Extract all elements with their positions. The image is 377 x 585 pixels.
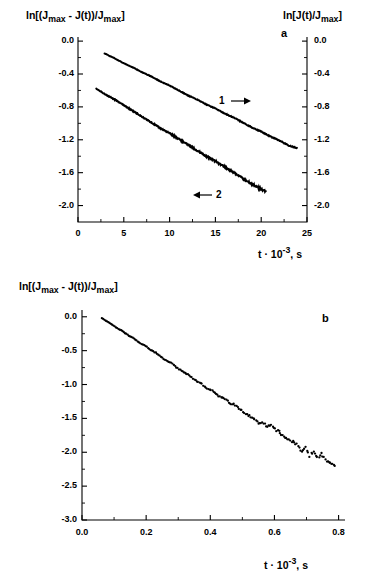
panel-a-curve-2 — [96, 89, 265, 192]
scatter-point — [281, 434, 283, 436]
curve-1-arrow-right-icon — [231, 98, 251, 105]
panel-b-y-tick-label: 0.0 — [38, 311, 77, 321]
scatter-point — [209, 389, 211, 391]
panel-a-y-tick-label-right: -0.4 — [314, 68, 352, 78]
scatter-point — [253, 418, 255, 420]
scatter-point — [240, 409, 242, 411]
panel-b-axes — [82, 310, 345, 520]
panel-b-scatter-points — [101, 317, 336, 467]
panel-a-axes — [78, 37, 307, 222]
panel-a-x-tick-label: 20 — [247, 228, 275, 238]
scatter-point — [318, 456, 320, 458]
panel-a-y-tick-label-right: -1.6 — [314, 167, 352, 177]
panel-a-x-tick-label: 0 — [64, 228, 92, 238]
panel-a-x-tick-label: 10 — [156, 228, 184, 238]
panel-a-y-tick-label-left: 0.0 — [36, 35, 74, 45]
scatter-point — [303, 448, 305, 450]
panel-a-ticks — [78, 41, 307, 222]
scatter-point — [316, 456, 318, 458]
panel-a-y-tick-label-right: -2.0 — [314, 200, 352, 210]
panel-b-x-tick-label: 0.6 — [258, 527, 290, 537]
scatter-point — [256, 420, 258, 422]
panel-a-y-tick-label-right: -0.8 — [314, 101, 352, 111]
panel-a-x-axis-title: t · 10-3, s — [258, 245, 302, 260]
panel-b-y-axis-title: ln[(Jmax - J(t))/Jmax] — [19, 280, 118, 295]
panel-b-y-tick-label: -3.0 — [38, 514, 77, 524]
scatter-point — [323, 456, 325, 458]
scatter-point — [289, 439, 291, 441]
panel-b-y-tick-label: -0.5 — [38, 345, 77, 355]
panel-b-y-tick-label: -2.0 — [38, 446, 77, 456]
panel-a-x-tick-label: 25 — [293, 228, 321, 238]
panel-b-x-tick-label: 0.8 — [323, 527, 355, 537]
panel-a-y-tick-label-left: -1.2 — [36, 134, 74, 144]
scatter-point — [307, 451, 309, 453]
panel-b-y-tick-label: -1.5 — [38, 412, 77, 422]
panel-a-y-tick-label-left: -0.4 — [36, 68, 74, 78]
scatter-point — [308, 456, 310, 458]
scatter-point — [227, 400, 229, 402]
panel-a-x-tick-label: 5 — [110, 228, 138, 238]
scatter-point — [320, 452, 322, 454]
panel-b-ticks — [82, 317, 339, 520]
scatter-point — [314, 452, 316, 454]
curve-2-arrow-left-icon — [193, 192, 212, 199]
scatter-point — [248, 414, 250, 416]
panel-b-x-axis-title: t · 10-3, s — [264, 556, 308, 571]
panel-b-x-tick-label: 0.2 — [130, 527, 162, 537]
scatter-point — [278, 430, 280, 432]
panel-a-y-tick-label-right: -1.2 — [314, 134, 352, 144]
panel-a: ln[(Jmax - J(t))/Jmax] ln[J(t)/Jmax] a — [0, 0, 377, 268]
curve-2-label: 2 — [216, 189, 222, 200]
panel-a-y-tick-label-left: -2.0 — [36, 200, 74, 210]
curve-1-label: 1 — [219, 95, 225, 106]
scatter-point — [304, 446, 306, 448]
scatter-point — [319, 454, 321, 456]
scatter-point — [311, 452, 313, 454]
panel-a-y-tick-label-right: 0.0 — [314, 35, 352, 45]
panel-a-y-tick-label-left: -1.6 — [36, 167, 74, 177]
scatter-point — [293, 441, 295, 443]
scatter-point — [270, 424, 272, 426]
scatter-point — [200, 382, 202, 384]
scatter-point — [334, 465, 336, 467]
scatter-point — [264, 422, 266, 424]
panel-b-y-tick-label: -1.0 — [38, 379, 77, 389]
panel-b: ln[(Jmax - J(t))/Jmax] b 0.00.20.40.60.8… — [0, 268, 377, 585]
figure-root: ln[(Jmax - J(t))/Jmax] ln[J(t)/Jmax] a — [0, 0, 377, 585]
scatter-point — [324, 458, 326, 460]
panel-b-x-tick-label: 0.4 — [194, 527, 226, 537]
panel-a-x-tick-label: 15 — [201, 228, 229, 238]
panel-a-right-axis-title: ln[J(t)/Jmax] — [283, 9, 342, 24]
panel-a-y-tick-label-left: -0.8 — [36, 101, 74, 111]
panel-a-curve-1 — [105, 54, 297, 149]
panel-a-left-axis-title: ln[(Jmax - J(t))/Jmax] — [26, 9, 125, 24]
panel-b-y-tick-label: -2.5 — [38, 480, 77, 490]
scatter-point — [295, 442, 297, 444]
scatter-point — [313, 451, 315, 453]
scatter-point — [274, 427, 276, 429]
scatter-point — [298, 446, 300, 448]
panel-a-letter: a — [281, 27, 287, 39]
panel-b-letter: b — [322, 312, 329, 324]
panel-b-x-tick-label: 0.0 — [66, 527, 98, 537]
